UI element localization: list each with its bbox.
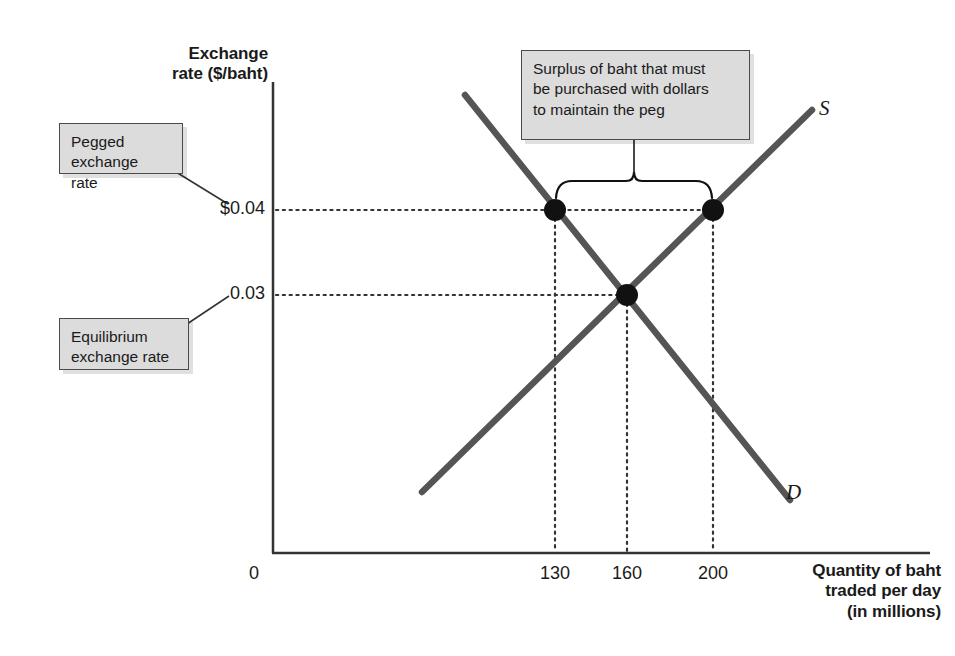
- y-tick-label-004: $0.04: [150, 198, 265, 220]
- callout-equilibrium-exchange-rate: Equilibrium exchange rate: [59, 318, 189, 370]
- exchange-rate-figure: Exchange rate ($/baht) $0.04 0.03 0 130 …: [0, 0, 955, 656]
- callout-surplus-of-baht: Surplus of baht that must be purchased w…: [521, 50, 750, 140]
- x-tick-label-130: 130: [515, 563, 595, 585]
- marker-quantity-demanded: [544, 199, 566, 221]
- x-tick-label-160: 160: [587, 563, 667, 585]
- marker-quantity-supplied: [702, 199, 724, 221]
- supply-curve-label: S: [819, 96, 830, 121]
- demand-curve-label: D: [786, 480, 801, 505]
- origin-label: 0: [249, 563, 259, 585]
- y-axis-title: Exchange rate ($/baht): [90, 44, 268, 85]
- surplus-brace: [556, 172, 712, 198]
- marker-equilibrium: [616, 284, 638, 306]
- x-axis-title: Quantity of baht traded per day (in mill…: [716, 561, 941, 622]
- supply-curve: [422, 110, 812, 492]
- callout-pegged-exchange-rate: Pegged exchange rate: [59, 123, 183, 174]
- y-tick-label-003: 0.03: [150, 283, 265, 305]
